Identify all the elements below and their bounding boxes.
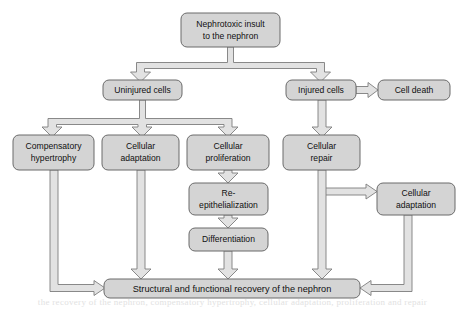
connector-hypertrophy-recovery	[50, 170, 105, 296]
connector-adaptationright-recovery	[360, 215, 412, 296]
node-re-epithelialization[interactable]: Re- epithelialization	[189, 183, 268, 215]
node-differentiation-label: Differentiation	[202, 234, 255, 244]
node-cellular-repair-line1: Cellular	[307, 141, 336, 151]
node-cell-death-label: Cell death	[395, 85, 434, 95]
node-compensatory-hypertrophy-line2: hypertrophy	[31, 153, 77, 163]
connector-uninjured-split	[42, 100, 238, 137]
connector-adaptationleft-recovery	[131, 170, 151, 279]
node-cellular-adaptation-left-line1: Cellular	[126, 141, 155, 151]
connector-repair-recovery	[312, 170, 332, 279]
connector-repair-adaptation-right	[322, 184, 377, 199]
node-injured-cells-label: Injured cells	[298, 85, 344, 95]
connector-differentiation-recovery	[218, 251, 238, 279]
node-cellular-adaptation-left[interactable]: Cellular adaptation	[102, 135, 179, 170]
node-cellular-adaptation-right-line1: Cellular	[401, 188, 430, 198]
flowchart-svg: Nephrotoxic insult to the nephron Uninju…	[0, 0, 465, 311]
figure-caption-fragment: the recovery of the nephron, compensator…	[0, 297, 465, 311]
node-nephrotoxic-insult[interactable]: Nephrotoxic insult to the nephron	[181, 13, 280, 47]
node-nephrotoxic-insult-line2: to the nephron	[203, 31, 259, 41]
node-nephrotoxic-insult-line1: Nephrotoxic insult	[196, 19, 265, 29]
node-cellular-proliferation-line1: Cellular	[213, 141, 242, 151]
node-recovery-label: Structural and functional recovery of th…	[133, 284, 332, 294]
node-re-epithelialization-line2: epithelialization	[199, 200, 258, 210]
node-cellular-proliferation[interactable]: Cellular proliferation	[187, 135, 269, 170]
connector-proliferation-reepi	[218, 170, 238, 183]
node-cellular-proliferation-line2: proliferation	[206, 153, 251, 163]
node-cellular-adaptation-right[interactable]: Cellular adaptation	[377, 183, 455, 215]
node-uninjured-cells-label: Uninjured cells	[114, 85, 170, 95]
connector-insult-split	[131, 47, 331, 82]
node-cell-death[interactable]: Cell death	[378, 80, 450, 100]
node-cellular-repair-line2: repair	[311, 153, 333, 163]
node-cellular-adaptation-left-line2: adaptation	[120, 153, 160, 163]
node-compensatory-hypertrophy[interactable]: Compensatory hypertrophy	[13, 135, 94, 170]
node-recovery[interactable]: Structural and functional recovery of th…	[104, 279, 360, 298]
node-compensatory-hypertrophy-line1: Compensatory	[26, 141, 83, 151]
node-cellular-adaptation-right-line2: adaptation	[396, 200, 436, 210]
node-uninjured-cells[interactable]: Uninjured cells	[103, 80, 182, 100]
node-nephrotoxic-insult-box[interactable]	[181, 13, 280, 47]
connector-injured-repair	[312, 100, 332, 137]
node-cellular-repair[interactable]: Cellular repair	[283, 135, 360, 170]
node-re-epithelialization-line1: Re-	[222, 188, 236, 198]
connector-injured-celldeath	[356, 83, 378, 98]
node-differentiation[interactable]: Differentiation	[189, 228, 268, 251]
node-injured-cells[interactable]: Injured cells	[286, 80, 356, 100]
connector-reepi-differentiation	[218, 215, 238, 228]
diagram-canvas: Nephrotoxic insult to the nephron Uninju…	[0, 0, 465, 311]
